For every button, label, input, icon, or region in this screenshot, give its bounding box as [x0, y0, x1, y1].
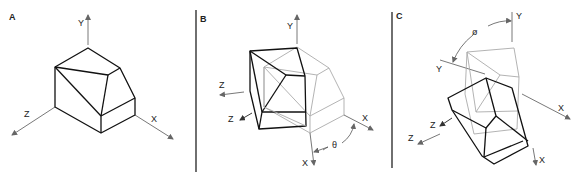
x-axis-rotated-c: [533, 148, 536, 165]
z-label-original-b: Z: [219, 80, 225, 90]
rotation-figure: A Y Z X B: [0, 0, 578, 182]
panel-b: B Y Z Z X X: [200, 14, 373, 168]
panel-a: A Y Z X: [9, 12, 173, 139]
ghost-inner-left-c: [467, 52, 476, 112]
axes-a: [12, 15, 173, 139]
phi-symbol-c: ø: [472, 27, 478, 37]
x-label-original-c: X: [558, 103, 564, 113]
object-outline-a: [55, 48, 135, 133]
z-label-rotated-c: Z: [430, 120, 436, 130]
rotated-object-b: [250, 48, 306, 129]
z-axis-a: [12, 107, 55, 135]
rotated-left-inner-b: [250, 51, 262, 112]
step-edge-a: [101, 98, 135, 116]
rotated-object-c: [448, 78, 528, 164]
rotated-outline-c: [448, 78, 528, 164]
ghost-step-edge-b: [310, 98, 344, 116]
diagonal-edge-a: [55, 67, 101, 116]
z-axis-original-c: [418, 134, 440, 144]
z-axis-original-b: [220, 92, 244, 95]
y-label-a: Y: [78, 18, 84, 28]
x-axis-rotated-b: [310, 133, 314, 165]
y-label-rotated-c: Y: [436, 64, 442, 74]
y-label-original-c: Y: [516, 11, 522, 21]
z-axis-rotated-c: [440, 118, 452, 126]
y-label-b: Y: [287, 21, 293, 31]
panel-label-b: B: [200, 14, 207, 24]
figure-canvas: A Y Z X B: [0, 0, 578, 182]
phi-arc-left-c: [453, 35, 473, 62]
y-axis-rotated-c: [440, 60, 485, 74]
z-label-a: Z: [24, 109, 30, 119]
theta-symbol-b: θ: [332, 140, 337, 150]
rotated-front-edge-b: [259, 112, 262, 129]
ghost-diagonal-c: [476, 75, 500, 112]
theta-arc-right-b: [342, 124, 354, 143]
ghost-step-edge-c: [476, 111, 518, 112]
rotated-diagonal-b: [262, 75, 286, 112]
inner-edge-a: [101, 75, 108, 116]
theta-arc-arrow-b: [314, 147, 328, 152]
z-label-rotated-b: Z: [228, 114, 234, 124]
panel-c: C Y ø Y X X: [396, 11, 570, 165]
ghost-inner-edge-b: [310, 75, 317, 116]
x-label-a: X: [151, 114, 157, 124]
ghost-top-edge-b: [264, 67, 329, 75]
z-axis-rotated-b: [240, 113, 252, 120]
x-label-rotated-c: X: [539, 155, 545, 165]
x-label-rotated-b: X: [302, 158, 308, 168]
panel-label-c: C: [396, 11, 403, 21]
x-axis-original-b: [344, 115, 373, 130]
top-edge-a: [55, 67, 120, 75]
x-label-original-b: X: [362, 113, 368, 123]
ghost-inner-bottom-b: [264, 107, 306, 126]
rotated-bottom-edge-c: [484, 141, 523, 157]
phi-arc-top-c: [488, 21, 511, 26]
ghost-diagonal-b: [264, 67, 310, 116]
panel-label-a: A: [9, 12, 16, 22]
ghost-top-edge-c: [467, 52, 519, 77]
z-label-original-c: Z: [408, 133, 414, 143]
object-a: [55, 48, 135, 133]
